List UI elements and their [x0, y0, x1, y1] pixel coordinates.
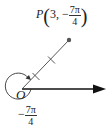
axis-arrowhead-icon — [93, 85, 106, 94]
theta-sign: − — [62, 7, 69, 21]
theta-num: 7π — [69, 4, 81, 16]
angle-label: −7π4 — [18, 104, 37, 127]
separator: , — [56, 7, 59, 21]
ray-op — [22, 40, 69, 89]
theta-den: 4 — [72, 16, 77, 27]
ray-tick-2 — [48, 57, 55, 64]
angle-fraction: 7π4 — [25, 104, 37, 127]
point-p-label: P(3, −7π4) — [36, 4, 88, 27]
theta-fraction: 7π4 — [69, 4, 81, 27]
angle-den: 4 — [28, 116, 33, 127]
angle-num: 7π — [25, 104, 37, 116]
angle-sign: − — [18, 107, 25, 121]
point-p — [67, 38, 71, 42]
origin-label: O — [16, 88, 25, 101]
